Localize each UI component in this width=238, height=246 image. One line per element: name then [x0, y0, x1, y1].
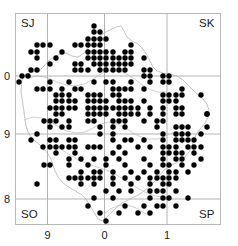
record-dot [97, 55, 102, 60]
record-dot [97, 29, 102, 34]
record-dot [103, 105, 108, 110]
record-dot [110, 195, 115, 200]
record-dot [97, 67, 102, 72]
record-dot [59, 92, 64, 97]
record-dot [147, 188, 152, 193]
record-dot [91, 36, 96, 41]
record-dot [91, 105, 96, 110]
record-dot [122, 55, 127, 60]
record-dot [160, 105, 165, 110]
record-dot [28, 137, 33, 142]
record-dot [160, 144, 165, 149]
record-dot [128, 181, 133, 186]
record-dot [185, 195, 190, 200]
record-dot [110, 55, 115, 60]
record-dot [97, 49, 102, 54]
record-dot [166, 150, 171, 155]
record-dot [110, 169, 115, 174]
record-dot [110, 49, 115, 54]
record-dot [160, 118, 165, 123]
record-dot [116, 55, 121, 60]
y-axis-tick-label-9: 9 [4, 129, 10, 140]
record-dot [91, 79, 96, 84]
record-dot [97, 210, 102, 215]
record-dot [160, 111, 165, 116]
record-dot [85, 175, 90, 180]
record-dot [128, 105, 133, 110]
record-dot [47, 42, 52, 47]
record-dot [47, 144, 52, 149]
record-dot [91, 118, 96, 123]
record-dot [110, 86, 115, 91]
record-dot [97, 42, 102, 47]
record-dot [59, 49, 64, 54]
record-dot [103, 79, 108, 84]
record-dot [173, 98, 178, 103]
record-dot [91, 156, 96, 161]
record-dot [28, 49, 33, 54]
record-dot [173, 124, 178, 129]
record-dot [53, 92, 58, 97]
record-dot [147, 105, 152, 110]
record-dot [147, 111, 152, 116]
record-dot [122, 67, 127, 72]
record-dot [122, 105, 127, 110]
record-dot [85, 105, 90, 110]
record-dot [85, 36, 90, 41]
record-dot [147, 79, 152, 84]
record-dot [72, 61, 77, 66]
record-dot [110, 131, 115, 136]
record-dot [91, 61, 96, 66]
record-dot [160, 188, 165, 193]
record-dot [154, 118, 159, 123]
record-dot [47, 79, 52, 84]
record-dot [135, 111, 140, 116]
record-dot [160, 137, 165, 142]
record-dot [128, 188, 133, 193]
record-dot [122, 203, 127, 208]
record-dot [91, 92, 96, 97]
record-dot [122, 49, 127, 54]
record-dot [191, 162, 196, 167]
record-dots [16, 23, 209, 223]
record-dot [59, 98, 64, 103]
record-dot [103, 188, 108, 193]
record-dot [72, 98, 77, 103]
grid-square-label-sj: SJ [21, 18, 34, 30]
record-dot [66, 175, 71, 180]
record-dot [85, 203, 90, 208]
record-dot [91, 29, 96, 34]
record-dot [160, 181, 165, 186]
record-dot [53, 137, 58, 142]
record-dot [91, 42, 96, 47]
record-dot [103, 111, 108, 116]
record-dot [59, 111, 64, 116]
record-dot [47, 162, 52, 167]
record-dot [116, 210, 121, 215]
record-dot [47, 86, 52, 91]
record-dot [53, 55, 58, 60]
record-dot [116, 105, 121, 110]
record-dot [91, 144, 96, 149]
record-dot [128, 137, 133, 142]
record-dot [135, 144, 140, 149]
record-dot [85, 42, 90, 47]
record-dot [72, 67, 77, 72]
x-axis-tick-label-9: 9 [45, 230, 51, 241]
record-dot [47, 61, 52, 66]
record-dot [122, 118, 127, 123]
record-dot [34, 49, 39, 54]
record-dot [128, 49, 133, 54]
record-dot [103, 36, 108, 41]
record-dot [166, 169, 171, 174]
record-dot [147, 195, 152, 200]
record-dot [166, 144, 171, 149]
y-axis-tick-label-0: 0 [4, 71, 10, 82]
record-dot [91, 169, 96, 174]
record-dot [97, 124, 102, 129]
record-dot [135, 105, 140, 110]
record-dot [103, 55, 108, 60]
record-dot [78, 86, 83, 91]
record-dot [85, 118, 90, 123]
record-dot [179, 111, 184, 116]
